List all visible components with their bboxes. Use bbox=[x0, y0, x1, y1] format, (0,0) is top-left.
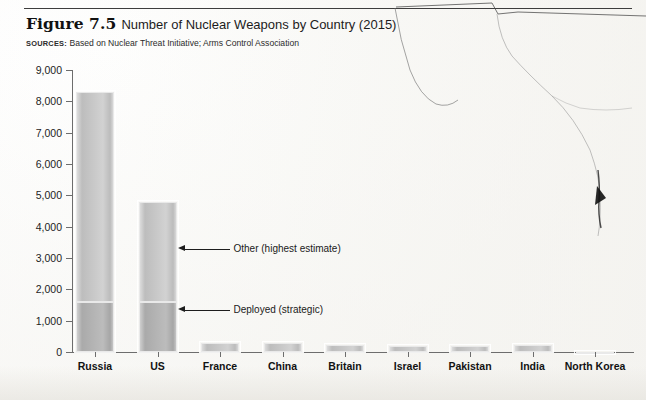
figure-page: Figure 7.5Number of Nuclear Weapons by C… bbox=[0, 0, 646, 400]
scan-crack-artifact bbox=[0, 0, 646, 400]
